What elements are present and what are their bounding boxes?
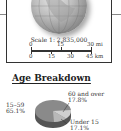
scale-km-label: 0 bbox=[29, 53, 33, 59]
scale-bar: 0 15 30 mi 0 15 30 45 km bbox=[24, 44, 94, 58]
scale-km-label: 15 bbox=[48, 53, 55, 59]
label-15-59: 15–59 65.1% bbox=[6, 102, 25, 114]
globe-image bbox=[31, 0, 87, 34]
scale-tick bbox=[61, 47, 62, 50]
scale-mi-label: 30 mi bbox=[87, 41, 103, 47]
locator-map-box: Scale 1: 2,835,000 0 15 30 mi 0 15 30 45… bbox=[6, 0, 112, 63]
scale-mi-label: 0 bbox=[29, 41, 33, 47]
label-60-and-over: 60 and over 17.8% bbox=[68, 91, 104, 103]
globe-gridlines-icon bbox=[31, 0, 87, 34]
scale-km-label: 30 bbox=[67, 53, 74, 59]
scale-mi-label: 15 bbox=[57, 41, 64, 47]
age-breakdown-title: Age Breakdown bbox=[12, 73, 91, 83]
scale-km-label: 45 km bbox=[86, 53, 103, 59]
label-under-15: Under 15 17.1% bbox=[70, 119, 99, 131]
label-60-and-over-value: 17.8% bbox=[68, 97, 104, 103]
label-under-15-value: 17.1% bbox=[70, 125, 99, 131]
scale-bar-line bbox=[31, 50, 91, 52]
label-15-59-value: 65.1% bbox=[6, 108, 25, 114]
